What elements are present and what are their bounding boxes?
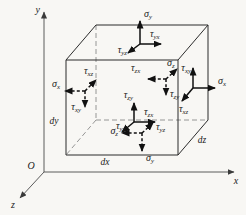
dy-label: dy: [50, 116, 60, 126]
tau-xy-label-right: τxy: [181, 62, 192, 74]
tau-yz-label-bottom: τyz: [156, 121, 166, 133]
tau-yx-label-bottom: τyx: [116, 120, 126, 132]
origin-label: O: [27, 160, 34, 171]
stress-triad-left-face-hidden: σx τxz τxy: [52, 65, 96, 113]
tau-xz-label-left: τxz: [84, 65, 94, 77]
cube-front-face: [66, 60, 178, 155]
tau-zy-label-front: τzy: [124, 89, 134, 101]
dimension-labels: dy dx dz: [50, 116, 207, 167]
tau-xz-arrow-right: [182, 88, 193, 101]
x-axis-label: x: [233, 175, 239, 186]
stress-element-svg: y x z O dy dx dz σy τyx τyz τxy σx τxz: [0, 0, 246, 215]
dx-label: dx: [101, 157, 111, 167]
tau-xz-label-right: τxz: [179, 103, 189, 115]
stress-element-figure: y x z O dy dx dz σy τyx τyz τxy σx τxz: [0, 0, 246, 215]
tau-xy-label-left: τxy: [71, 101, 82, 113]
tau-zx-label-back: τzx: [131, 62, 140, 74]
stress-triad-bottom-face-hidden: τyx τyz σy: [116, 120, 166, 164]
tau-xz-arrow-left: [85, 80, 96, 91]
cube-top-right-edges: [66, 25, 208, 155]
sigma-z-arrow-back: [166, 69, 177, 79]
tau-zx-label-front: τzx: [144, 106, 153, 118]
z-axis-label: z: [10, 199, 15, 210]
stress-cube: [66, 25, 208, 155]
tau-yz-arrow-bottom: [142, 123, 153, 133]
z-axis: [20, 172, 44, 198]
sigma-z-label-back: σz: [167, 57, 175, 69]
tau-yz-label-top: τyz: [118, 44, 128, 56]
coordinate-axes: y x z O: [10, 4, 239, 210]
y-axis-label: y: [35, 4, 41, 15]
stress-triad-right-face: τxy σx τxz: [179, 62, 226, 115]
tau-yz-arrow-top: [128, 44, 140, 53]
dz-label: dz: [198, 135, 207, 145]
cube-hidden-edges: [66, 25, 208, 155]
tau-yx-label-top: τyx: [150, 28, 160, 40]
sigma-y-label-top: σy: [144, 8, 153, 20]
sigma-y-label-bottom: σy: [146, 152, 155, 164]
tau-zy-label-back: τzy: [170, 88, 180, 100]
stress-triad-back-face-hidden: τzx σz τzy: [131, 57, 180, 100]
sigma-x-label-right: σx: [218, 75, 226, 87]
sigma-x-label-left: σx: [52, 78, 60, 90]
stress-triad-top-face: σy τyx τyz: [118, 8, 161, 56]
